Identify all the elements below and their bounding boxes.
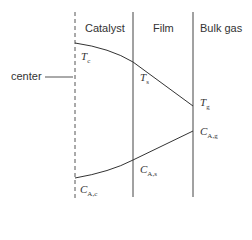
center-label: center [11, 70, 42, 82]
region-label-bulk-gas: Bulk gas [200, 22, 242, 34]
symbol-Tc: Tc [81, 50, 90, 65]
symbol-Ts: Ts [140, 71, 149, 86]
symbol-CAs: CA,s [140, 163, 157, 178]
region-label-film: Film [153, 22, 174, 34]
temperature-profile-curve [75, 43, 193, 106]
symbol-CAg: CA,g [200, 125, 218, 140]
symbol-CAc: CA,c [80, 183, 97, 198]
region-label-catalyst: Catalyst [85, 22, 125, 34]
concentration-profile-curve [75, 131, 193, 178]
symbol-Tg: Tg [200, 96, 210, 111]
